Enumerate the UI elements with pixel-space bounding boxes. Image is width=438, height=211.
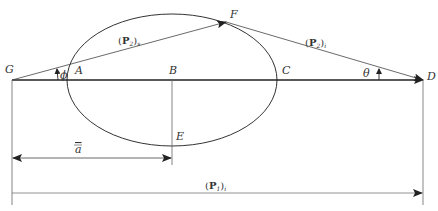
point-label-a: A	[74, 64, 83, 77]
angle-phi-arrow	[57, 69, 58, 80]
vector-fd	[226, 22, 423, 80]
point-label-e: E	[175, 130, 184, 143]
vector-label-fd: (P2)i	[305, 37, 326, 49]
angle-label-phi: ϕ	[60, 69, 68, 82]
vector-label-bottom: (P1)i	[205, 180, 226, 192]
point-label-c: C	[282, 64, 291, 77]
point-label-g: G	[5, 63, 14, 76]
point-label-f: F	[229, 8, 238, 21]
vector-label-gf: (P2)s	[118, 35, 140, 47]
diagram-canvas: G A B C D E F ϕ θ (P2)s (P2)i (P1)i a	[0, 0, 438, 211]
vector-gf	[12, 22, 226, 80]
angle-label-theta: θ	[363, 67, 370, 80]
point-label-d: D	[426, 70, 436, 83]
point-label-b: B	[168, 64, 177, 77]
